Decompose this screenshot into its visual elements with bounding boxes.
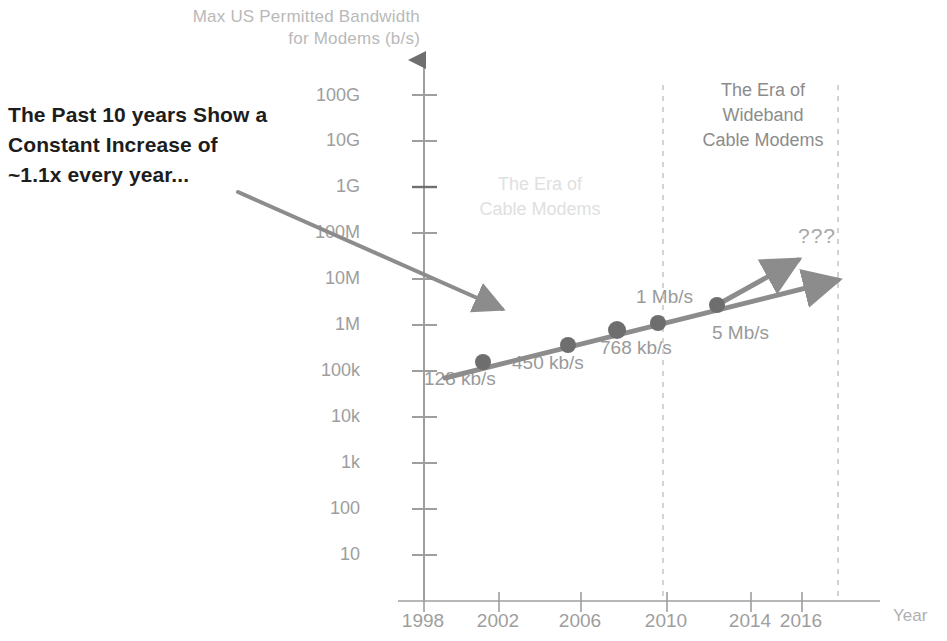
data-point-1mbs — [650, 315, 666, 331]
callout-arrow — [238, 192, 502, 309]
data-point-768kbs — [608, 321, 626, 339]
chart-canvas: Max US Permitted Bandwidth for Modems (b… — [0, 0, 947, 641]
chart-graphics — [0, 0, 947, 641]
x-axis-ticks — [424, 592, 802, 612]
trend-line — [445, 280, 838, 378]
data-point-5mbs — [709, 297, 725, 313]
data-point-128kbs — [475, 354, 491, 370]
data-point-450kbs — [560, 337, 576, 353]
